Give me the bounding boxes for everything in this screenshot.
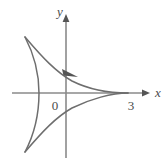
deltoid-curve-figure: y x 0 3 <box>0 0 167 168</box>
y-axis-label: y <box>55 4 63 19</box>
x-axis-label: x <box>154 85 161 100</box>
curve-lower-branch <box>25 93 128 152</box>
origin-label: 0 <box>52 98 59 113</box>
y-axis-arrowhead <box>63 14 70 22</box>
curve-left-branch <box>25 37 39 152</box>
curve-upper-branch <box>25 37 128 93</box>
figure-container: y x 0 3 <box>0 0 167 168</box>
x-tick-label-3: 3 <box>128 98 135 113</box>
x-axis-arrowhead <box>142 90 150 97</box>
